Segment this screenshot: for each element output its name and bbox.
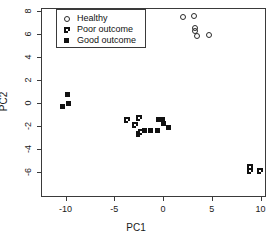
data-point — [206, 32, 212, 38]
y-axis-tick — [37, 172, 41, 173]
data-point — [60, 104, 65, 109]
data-point — [155, 128, 160, 133]
data-point — [132, 122, 138, 128]
data-point — [66, 101, 71, 106]
data-point — [142, 128, 147, 133]
x-axis-tick-label: 0 — [160, 204, 165, 214]
x-axis-tick — [114, 197, 115, 201]
y-axis-tick — [37, 34, 41, 35]
x-axis-tick-label: 5 — [209, 204, 214, 214]
data-point — [257, 168, 263, 174]
data-point — [194, 33, 200, 39]
legend-marker-icon — [62, 25, 72, 35]
legend-item-label: Poor outcome — [77, 24, 133, 35]
data-point — [161, 121, 166, 126]
scatter-plot-figure: -10-5051086420-2-4-6 PC1 PC2 HealthyPoor… — [0, 0, 272, 241]
data-point — [180, 14, 186, 20]
y-axis-tick-label: 0 — [23, 100, 33, 105]
y-axis-tick — [37, 103, 41, 104]
x-axis-label: PC1 — [0, 222, 272, 233]
data-point — [148, 128, 153, 133]
x-axis-tick-label: 10 — [255, 204, 265, 214]
legend-marker-icon — [62, 14, 72, 24]
x-axis-tick — [163, 197, 164, 201]
y-axis-tick-label: -4 — [23, 145, 33, 153]
x-axis-tick-label: -10 — [59, 204, 72, 214]
y-axis-tick — [37, 11, 41, 12]
data-point — [65, 92, 70, 97]
legend-box: HealthyPoor outcomeGood outcome — [56, 9, 146, 48]
y-axis-label: PC2 — [0, 92, 9, 111]
y-axis-tick-label: -6 — [23, 168, 33, 176]
y-axis-tick-label: -2 — [23, 122, 33, 130]
x-axis-tick — [66, 197, 67, 201]
data-point — [191, 13, 197, 19]
y-axis-tick — [37, 149, 41, 150]
y-axis-tick-label: 6 — [23, 31, 33, 36]
x-axis-tick — [261, 197, 262, 201]
legend-item: Poor outcome — [57, 24, 145, 35]
y-axis-tick — [37, 80, 41, 81]
x-axis-tick-label: -5 — [110, 204, 118, 214]
legend-item: Healthy — [57, 13, 145, 24]
legend-item-label: Healthy — [77, 13, 108, 24]
data-point — [247, 168, 253, 174]
legend-item-label: Good outcome — [77, 35, 136, 46]
legend-item: Good outcome — [57, 35, 145, 46]
y-axis-tick-label: 4 — [23, 54, 33, 59]
data-point — [166, 125, 171, 130]
y-axis-tick — [37, 57, 41, 58]
y-axis-tick-label: 8 — [23, 8, 33, 13]
legend-marker-icon — [62, 36, 72, 46]
x-axis-tick — [212, 197, 213, 201]
y-axis-tick — [37, 126, 41, 127]
y-axis-tick-label: 2 — [23, 77, 33, 82]
data-point — [124, 117, 130, 123]
data-point — [136, 115, 142, 121]
